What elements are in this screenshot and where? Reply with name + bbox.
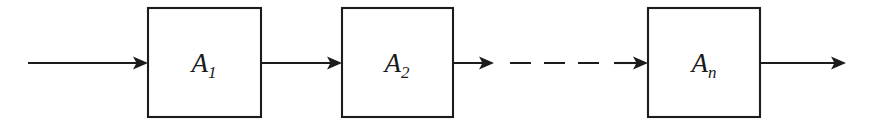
connector-input bbox=[28, 57, 148, 70]
connector-a2-out bbox=[453, 57, 494, 70]
diagram-svg: A1 A2 An bbox=[0, 0, 881, 128]
block-diagram-canvas: A1 A2 An bbox=[0, 0, 881, 128]
connector-a1-to-a2 bbox=[261, 57, 342, 70]
connector-to-an bbox=[614, 57, 648, 70]
block-a2[interactable]: A2 bbox=[342, 8, 453, 117]
block-a1[interactable]: A1 bbox=[148, 8, 261, 117]
connector-output bbox=[760, 57, 846, 70]
block-an[interactable]: An bbox=[648, 8, 760, 117]
